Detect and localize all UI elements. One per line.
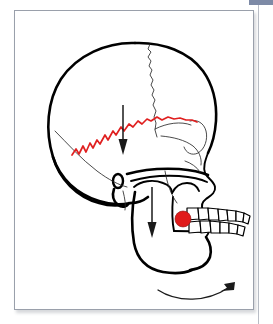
orbit-outline (184, 120, 207, 154)
external-auditory-meatus (113, 174, 123, 188)
zygomatic-arch-outline (127, 169, 208, 175)
lower-teeth-row (189, 221, 245, 236)
coronal-suture (148, 44, 157, 137)
zygomatic-arch-lower (131, 176, 207, 182)
tooth-upper-5 (227, 210, 236, 221)
mandibular-ramus-posterior (132, 192, 192, 273)
tooth-upper-7 (243, 213, 250, 224)
tooth-lower-2 (200, 221, 211, 233)
sphenoid-suture (161, 136, 201, 165)
skull-diagram (15, 11, 254, 310)
chin-outline (190, 237, 211, 270)
tooth-upper-3 (208, 208, 219, 220)
right-panel-rule[interactable] (258, 5, 259, 324)
tooth-lower-6 (237, 225, 245, 236)
tooth-lower-3 (210, 221, 220, 233)
tooth-lower-1 (189, 221, 201, 233)
mandible-downward-arrow (148, 187, 157, 238)
frontal-bone-outline (135, 43, 216, 153)
tooth-upper-2 (198, 208, 209, 220)
tooth-lower-4 (220, 222, 229, 233)
figure-frame: Lateral skull diagram with mandibular gr… (14, 10, 254, 310)
condyle-outline (134, 181, 172, 193)
top-chrome-bar (249, 0, 273, 5)
parietal-temporal-suture (155, 123, 191, 129)
molar-marker-icon (175, 211, 191, 227)
mandibular-ramus-anterior (172, 197, 174, 231)
mandibular-rotation-arrow (158, 282, 235, 299)
coronoid-notch-outline (172, 183, 199, 193)
page-root: Lateral skull diagram with mandibular gr… (0, 0, 273, 324)
